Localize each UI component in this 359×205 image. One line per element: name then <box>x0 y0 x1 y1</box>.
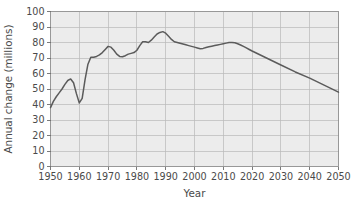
y-tick-label: 60 <box>32 68 44 79</box>
x-axis-ticks <box>51 167 339 171</box>
line-chart: 1950196019701980199020002010202020302040… <box>0 0 359 205</box>
x-tick-label: 1960 <box>67 171 91 182</box>
y-tick-label: 100 <box>26 6 44 17</box>
y-tick-label: 40 <box>32 99 44 110</box>
x-tick-label: 1970 <box>96 171 120 182</box>
x-tick-label: 2020 <box>240 171 264 182</box>
x-tick-label: 2000 <box>182 171 206 182</box>
y-tick-label: 80 <box>32 37 44 48</box>
x-tick-label: 2010 <box>211 171 235 182</box>
y-tick-label: 30 <box>32 114 44 125</box>
y-tick-label: 50 <box>32 83 44 94</box>
y-tick-label: 90 <box>32 21 44 32</box>
x-tick-label: 1950 <box>38 171 62 182</box>
y-axis-title: Annual change (millions) <box>2 24 14 153</box>
chart-container: 1950196019701980199020002010202020302040… <box>0 0 359 205</box>
y-axis-ticks <box>47 12 51 167</box>
x-tick-label: 1990 <box>153 171 177 182</box>
x-tick-label: 2040 <box>297 171 321 182</box>
y-tick-label: 10 <box>32 145 44 156</box>
y-tick-label: 70 <box>32 52 44 63</box>
y-axis-tick-labels: 0102030405060708090100 <box>26 6 44 172</box>
x-axis-title: Year <box>183 187 207 199</box>
y-tick-label: 20 <box>32 130 44 141</box>
x-tick-label: 2050 <box>326 171 350 182</box>
x-tick-label: 2030 <box>269 171 293 182</box>
y-tick-label: 0 <box>38 161 44 172</box>
x-axis-tick-labels: 1950196019701980199020002010202020302040… <box>38 171 350 182</box>
x-tick-label: 1980 <box>125 171 149 182</box>
